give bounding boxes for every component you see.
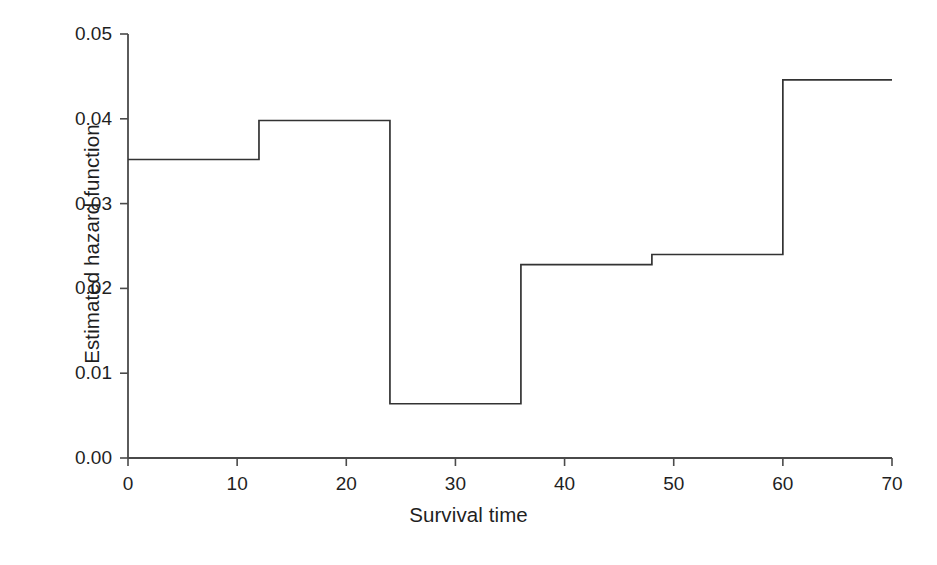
y-axis-ticks xyxy=(120,34,128,458)
y-axis-title: Estimated hazard function xyxy=(80,34,104,454)
hazard-step-line xyxy=(128,80,892,404)
axes-group xyxy=(120,34,892,466)
x-axis-title: Survival time xyxy=(0,503,937,527)
hazard-function-figure: 0.000.010.020.030.040.05 010203040506070… xyxy=(0,0,937,565)
x-axis-ticks xyxy=(128,458,892,466)
step-chart-plot xyxy=(0,0,937,565)
